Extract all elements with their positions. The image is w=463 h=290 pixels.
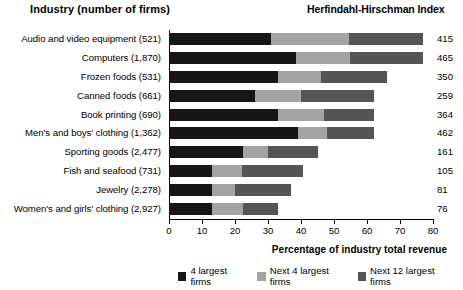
bar-segment-series-3 [242,165,303,177]
bar-segment-series-1 [169,184,212,196]
bar-segment-series-3 [324,109,374,121]
bar-row [169,30,433,49]
stacked-bar [169,165,303,177]
hhi-value: 350 [437,68,463,87]
bar-segment-series-1 [169,165,212,177]
axis-tick-label: 50 [319,225,349,236]
hhi-value: 259 [437,87,463,106]
bar-segment-series-3 [327,127,373,139]
legend-item: 4 largest firms [178,265,246,287]
legend-swatch [178,272,186,281]
axis-tick-label: 30 [253,225,283,236]
category-label: Audio and video equipment (521) [0,30,165,49]
stacked-bar [169,71,387,83]
category-label: Computers (1,870) [0,49,165,68]
axis-tick-label: 40 [286,225,316,236]
axis-tick [400,219,401,224]
hhi-value: 415 [437,30,463,49]
stacked-bar [169,203,278,215]
axis-tick [301,219,302,224]
bar-segment-series-3 [321,71,387,83]
bar-segment-series-2 [296,52,350,64]
axis-tick-label: 70 [385,225,415,236]
bars-layer [169,30,433,219]
legend-swatch [257,272,265,281]
bar-row [169,162,433,181]
legend-label: Next 4 largest firms [270,265,347,287]
hhi-value: 105 [437,162,463,181]
axis-tick-label: 0 [154,225,184,236]
stacked-bar [169,52,423,64]
bar-segment-series-2 [212,184,235,196]
category-label: Fish and seafood (731) [0,162,165,181]
hhi-value: 76 [437,200,463,219]
axis-tick [202,219,203,224]
bar-segment-series-1 [169,109,278,121]
industry-column-header: Industry (number of firms) [30,3,170,15]
category-label: Frozen foods (531) [0,68,165,87]
axis-tick-label: 20 [220,225,250,236]
bar-segment-series-2 [243,146,268,158]
bar-segment-series-3 [350,52,423,64]
bar-segment-series-3 [268,146,318,158]
bar-row [169,106,433,125]
hhi-value: 161 [437,143,463,162]
bar-row [169,200,433,219]
hhi-column-header: Herfindahl-Hirschman Index [307,3,444,15]
bar-segment-series-2 [278,109,324,121]
axis-tick [367,219,368,224]
stacked-bar [169,90,374,102]
axis-tick-label: 10 [187,225,217,236]
bar-segment-series-1 [169,52,296,64]
hhi-value: 81 [437,181,463,200]
category-label: Book printing (690) [0,106,165,125]
bar-segment-series-1 [169,203,212,215]
axis-tick [268,219,269,224]
bar-row [169,143,433,162]
stacked-bar [169,109,374,121]
bar-segment-series-1 [169,127,298,139]
x-axis-tick-labels: 01020304050607080 [0,225,463,239]
bar-segment-series-1 [169,33,271,45]
stacked-bar [169,33,423,45]
bar-segment-series-3 [301,90,374,102]
bar-row [169,181,433,200]
bar-segment-series-3 [235,184,291,196]
legend-label: 4 largest firms [190,265,246,287]
hhi-value: 364 [437,106,463,125]
bar-row [169,124,433,143]
bar-segment-series-1 [169,90,255,102]
legend-item: Next 12 largest firms [358,265,452,287]
bar-row [169,68,433,87]
bar-segment-series-2 [298,127,328,139]
legend-item: Next 4 largest firms [257,265,346,287]
axis-tick [433,219,434,224]
legend-swatch [358,272,366,281]
bar-segment-series-3 [349,33,423,45]
bar-segment-series-1 [169,146,243,158]
bar-segment-series-3 [243,203,278,215]
bar-segment-series-2 [278,71,321,83]
legend-label: Next 12 largest firms [370,265,452,287]
axis-tick-label: 80 [418,225,448,236]
hhi-value: 465 [437,49,463,68]
chart-container: Industry (number of firms) Herfindahl-Hi… [0,0,463,290]
category-labels: Audio and video equipment (521)Computers… [0,30,165,219]
bar-segment-series-2 [271,33,349,45]
category-label: Sporting goods (2,477) [0,143,165,162]
chart-legend: 4 largest firmsNext 4 largest firmsNext … [178,265,463,287]
category-label: Canned foods (661) [0,87,165,106]
axis-tick-label: 60 [352,225,382,236]
stacked-bar [169,184,291,196]
category-label: Men's and boys' clothing (1,362) [0,124,165,143]
bar-row [169,87,433,106]
bar-segment-series-1 [169,71,278,83]
x-axis-title: Percentage of industry total revenue [0,244,447,255]
axis-tick [334,219,335,224]
axis-tick [235,219,236,224]
hhi-value: 462 [437,124,463,143]
bar-row [169,49,433,68]
category-label: Jewelry (2,278) [0,181,165,200]
stacked-bar [169,127,374,139]
bar-segment-series-2 [255,90,301,102]
